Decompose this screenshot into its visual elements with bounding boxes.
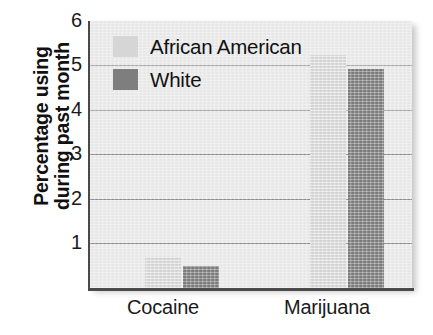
x-axis-tick-labels: Cocaine Marijuana: [90, 296, 412, 330]
legend-label-white: White: [150, 68, 201, 92]
x-tick-label-cocaine: Cocaine: [93, 296, 233, 319]
x-axis-line: [88, 288, 414, 291]
x-tick-label-marijuana: Marijuana: [257, 296, 397, 319]
legend-swatch-icon-white: [113, 69, 138, 90]
y-tick-label-1: 1: [56, 232, 82, 252]
legend-item-white: White: [113, 63, 363, 96]
y-tick-label-3: 3: [56, 143, 82, 163]
legend-label-african-american: African American: [150, 35, 302, 59]
y-tick-label-2: 2: [56, 188, 82, 208]
bar-marijuana-white: [348, 69, 384, 288]
y-tick-label-5: 5: [56, 54, 82, 74]
legend-item-african-american: African American: [113, 30, 363, 63]
legend-swatch-icon-african-american: [113, 36, 138, 57]
y-axis-tick-labels: 6 5 4 3 2 1: [56, 0, 82, 335]
chart-legend: African American White: [113, 30, 363, 96]
bar-cocaine-white: [183, 266, 219, 288]
y-tick-label-6: 6: [56, 10, 82, 30]
y-tick-label-4: 4: [56, 99, 82, 119]
bar-cocaine-african-american: [145, 257, 181, 288]
y-axis-title-line-1: Percentage using: [31, 46, 52, 205]
plot-area: African American White: [90, 21, 412, 288]
bar-chart-figure: Percentage using during past month 6 5 4…: [0, 0, 433, 335]
